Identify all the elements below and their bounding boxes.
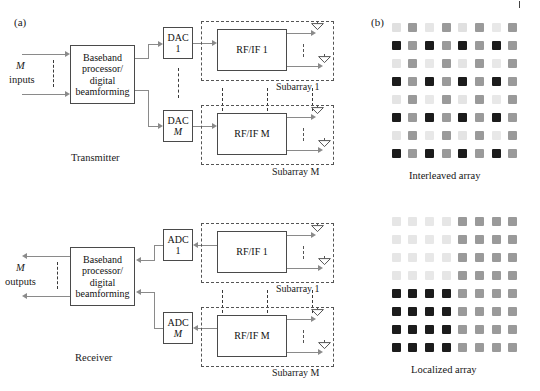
antenna-icon <box>318 54 331 65</box>
antenna-icon <box>311 105 324 116</box>
array-element <box>471 320 488 338</box>
rx-adc-m-line1: ADC <box>167 317 188 328</box>
array-element <box>488 284 505 302</box>
array-element <box>405 144 422 162</box>
receiver-output-arrow-2 <box>22 293 27 299</box>
array-element <box>488 320 505 338</box>
transmitter-rfif-m-block: RF/IF M <box>217 113 287 155</box>
tx-rfif-m-label: RF/IF M <box>234 128 269 139</box>
array-element <box>421 230 438 248</box>
array-element <box>471 90 488 108</box>
figure-canvas: (a) (b) M inputs Baseband processor/ dig… <box>0 0 540 391</box>
rx-subm-ant2-line <box>287 352 319 353</box>
array-element <box>455 212 472 230</box>
tx-subm-antenna-ellipsis <box>303 128 304 141</box>
array-element <box>388 284 405 302</box>
receiver-output-ellipsis <box>57 262 58 289</box>
localized-array-caption: Localized array <box>411 364 477 375</box>
rx-route-1-arrow <box>136 257 141 263</box>
array-element <box>405 72 422 90</box>
array-element <box>438 230 455 248</box>
array-element <box>455 320 472 338</box>
array-element <box>405 338 422 356</box>
array-element <box>488 144 505 162</box>
receiver-output-line-1 <box>27 256 70 257</box>
array-element <box>504 54 521 72</box>
array-element <box>471 144 488 162</box>
antenna-icon <box>318 138 331 149</box>
array-element <box>471 284 488 302</box>
array-element <box>438 36 455 54</box>
array-element <box>388 248 405 266</box>
tx-sub1-ant2-line <box>287 66 319 67</box>
rx-route-2-arrow <box>136 289 141 295</box>
array-element <box>405 320 422 338</box>
array-element <box>488 54 505 72</box>
receiver-section-label: Receiver <box>75 352 112 363</box>
array-element <box>455 108 472 126</box>
array-element <box>504 72 521 90</box>
array-element <box>388 212 405 230</box>
rx-route-1-v <box>154 245 155 261</box>
array-element <box>455 284 472 302</box>
receiver-output-line-2 <box>27 296 70 297</box>
array-element <box>438 338 455 356</box>
rx-route-2-h1 <box>154 328 163 329</box>
tx-route-2-h1 <box>135 90 149 91</box>
array-element <box>388 144 405 162</box>
transmitter-input-line-1 <box>22 54 66 55</box>
array-element <box>471 302 488 320</box>
array-element <box>388 54 405 72</box>
array-element <box>471 54 488 72</box>
array-element <box>504 284 521 302</box>
receiver-io-label-m: M <box>16 262 25 273</box>
transmitter-dac-ellipsis <box>178 68 179 98</box>
receiver-adc-1-block: ADC 1 <box>163 229 193 261</box>
rx-subm-ant1-line <box>287 319 312 320</box>
rx-rfif-1-label: RF/IF 1 <box>236 246 267 257</box>
rx-route-1-h1 <box>154 245 163 246</box>
tx-dac-1-line1: DAC <box>167 32 188 43</box>
rx-adc-1-line1: ADC <box>167 234 188 245</box>
receiver-rfif-1-block: RF/IF 1 <box>217 231 287 273</box>
array-element <box>488 72 505 90</box>
array-element <box>438 248 455 266</box>
array-element <box>488 248 505 266</box>
array-element <box>488 338 505 356</box>
array-element <box>421 302 438 320</box>
array-element <box>438 266 455 284</box>
array-element <box>421 108 438 126</box>
array-element <box>405 36 422 54</box>
array-element <box>455 338 472 356</box>
tx-subm-ant1-line <box>287 117 312 118</box>
array-element <box>388 108 405 126</box>
array-element <box>504 90 521 108</box>
array-element <box>421 18 438 36</box>
array-element <box>388 302 405 320</box>
array-element <box>488 126 505 144</box>
array-element <box>504 230 521 248</box>
array-element <box>421 90 438 108</box>
array-element <box>421 284 438 302</box>
array-element <box>438 144 455 162</box>
transmitter-io-label-inputs: inputs <box>9 74 35 85</box>
array-element <box>405 248 422 266</box>
rx-rf1-to-adc-arrow <box>193 242 198 248</box>
array-element <box>438 72 455 90</box>
localized-array-grid <box>388 212 521 356</box>
receiver-io-label-outputs: outputs <box>5 276 36 287</box>
array-element <box>488 302 505 320</box>
array-element <box>471 108 488 126</box>
array-element <box>388 18 405 36</box>
array-element <box>405 90 422 108</box>
antenna-icon <box>318 340 331 351</box>
array-element <box>405 266 422 284</box>
corner-tick-mark <box>519 1 520 8</box>
array-element <box>504 36 521 54</box>
array-element <box>471 36 488 54</box>
receiver-baseband-block: Baseband processor/ digital beamforming <box>70 247 135 306</box>
transmitter-input-ellipsis <box>53 60 54 87</box>
array-element <box>504 248 521 266</box>
array-element <box>504 18 521 36</box>
array-element <box>438 126 455 144</box>
